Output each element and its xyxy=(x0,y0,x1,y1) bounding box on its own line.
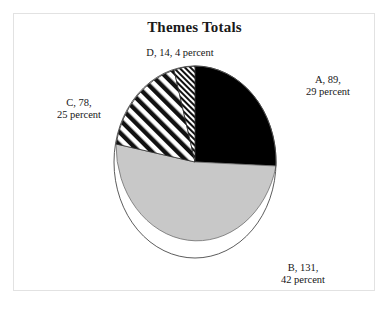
pie-label-b-line1: B, 131, xyxy=(288,262,319,273)
pie-chart xyxy=(112,64,278,260)
pie-chart-svg xyxy=(112,64,278,260)
pie-label-b: B, 131, 42 percent xyxy=(262,262,344,286)
pie-label-b-line2: 42 percent xyxy=(262,274,344,286)
page-title: Themes Totals xyxy=(0,19,389,36)
pie-label-a-line1: A, 89, xyxy=(315,74,341,85)
pie-label-a-line2: 29 percent xyxy=(286,86,370,98)
pie-label-c: C, 78, 25 percent xyxy=(38,97,120,121)
pie-label-c-line2: 25 percent xyxy=(38,109,120,121)
pie-label-d: D, 14, 4 percent xyxy=(115,47,245,59)
pie-label-c-line1: C, 78, xyxy=(66,97,91,108)
figure-caption xyxy=(0,300,389,314)
pie-label-d-line1: D, 14, 4 percent xyxy=(146,47,213,58)
pie-slice-a xyxy=(195,66,276,166)
pie-label-a: A, 89, 29 percent xyxy=(286,74,370,98)
